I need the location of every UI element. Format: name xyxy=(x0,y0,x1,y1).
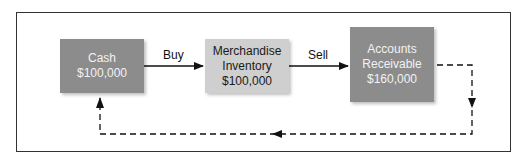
cash-amount: $100,000 xyxy=(77,66,127,81)
down-arrowhead xyxy=(468,98,476,108)
buy-label: Buy xyxy=(163,48,184,62)
ar-title-1: Accounts xyxy=(367,42,416,57)
sell-label: Sell xyxy=(308,48,328,62)
left-arrowhead xyxy=(272,130,282,138)
merch-amount: $100,000 xyxy=(222,74,272,89)
merch-title-1: Merchandise xyxy=(213,44,282,59)
merch-title-2: Inventory xyxy=(222,59,271,74)
ar-amount: $160,000 xyxy=(367,72,417,87)
accounts-receivable-node: Accounts Receivable $160,000 xyxy=(350,27,434,102)
cash-title: Cash xyxy=(88,51,116,66)
up-arrowhead xyxy=(96,97,104,108)
ar-title-2: Receivable xyxy=(362,57,421,72)
cash-node: Cash $100,000 xyxy=(60,39,144,93)
merchandise-inventory-node: Merchandise Inventory $100,000 xyxy=(205,39,289,93)
